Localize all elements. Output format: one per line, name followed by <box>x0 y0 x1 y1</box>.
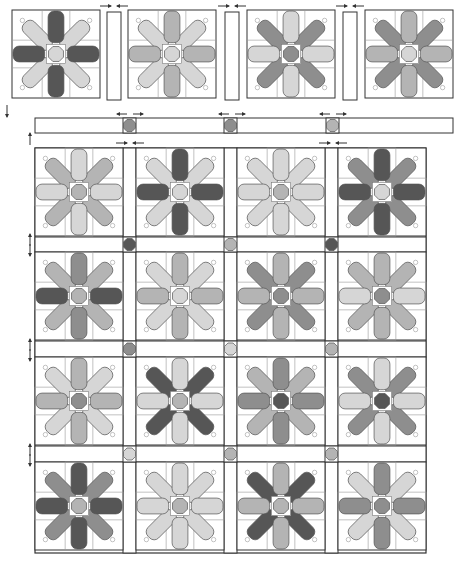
corner-point <box>245 327 249 331</box>
corner-point <box>211 156 215 160</box>
center-octagon <box>274 185 289 200</box>
corner-point <box>87 18 91 22</box>
corner-point <box>110 327 114 331</box>
arrow-down-icon <box>5 114 9 118</box>
horizontal-petal <box>366 46 398 62</box>
arrowhead-icon <box>116 112 120 116</box>
corner-point <box>144 365 148 369</box>
horizontal-petal <box>137 184 169 200</box>
horizontal-petal <box>13 46 45 62</box>
center-octagon <box>49 47 64 62</box>
center-octagon <box>72 185 87 200</box>
arrowhead-icon <box>344 4 348 8</box>
vertical-petal <box>273 412 289 444</box>
horizontal-petal <box>90 184 122 200</box>
grid-press-arrow-2 <box>319 141 347 145</box>
corner-point <box>312 260 316 264</box>
top-vertical-sashing-2 <box>225 12 239 100</box>
horizontal-petal <box>36 498 68 514</box>
horizontal-petal <box>90 393 122 409</box>
horizontal-petal <box>238 393 270 409</box>
cornerstone-r2-c1 <box>124 343 136 355</box>
corner-point <box>144 470 148 474</box>
cornerstone-r1-c1 <box>124 239 136 251</box>
horizontal-petal <box>238 184 270 200</box>
center-octagon <box>173 394 188 409</box>
corner-point <box>413 327 417 331</box>
corner-point <box>245 223 249 227</box>
vertical-petal <box>273 253 289 285</box>
corner-point <box>440 18 444 22</box>
corner-point <box>43 260 47 264</box>
corner-point <box>413 156 417 160</box>
side-arrow-1 <box>5 105 9 118</box>
center-octagon <box>72 394 87 409</box>
horizontal-petal <box>36 184 68 200</box>
vertical-petal <box>273 358 289 390</box>
corner-point <box>312 470 316 474</box>
cornerstone-2 <box>225 120 237 132</box>
grid-block-r3-c4 <box>338 357 426 445</box>
corner-point <box>413 223 417 227</box>
horizontal-petal <box>339 184 371 200</box>
vertical-petal <box>48 65 64 97</box>
cornerstone-3 <box>327 120 339 132</box>
vertical-petal <box>374 307 390 339</box>
grid-block-r1-c2 <box>136 148 224 236</box>
vertical-petal <box>71 517 87 549</box>
horizontal-petal <box>191 393 223 409</box>
vertical-petal <box>172 307 188 339</box>
grid-block-r4-c4 <box>338 462 426 550</box>
corner-point <box>110 432 114 436</box>
vertical-petal <box>71 203 87 235</box>
grid-block-r1-c3 <box>237 148 325 236</box>
cornerstone-r3-c2 <box>225 448 237 460</box>
corner-point <box>211 365 215 369</box>
vertical-petal <box>48 11 64 43</box>
vertical-petal <box>273 149 289 181</box>
vertical-petal <box>164 11 180 43</box>
horizontal-petal <box>302 46 334 62</box>
corner-point <box>136 18 140 22</box>
horizontal-petal <box>137 393 169 409</box>
top-row-block-1 <box>12 10 100 98</box>
vertical-petal <box>172 358 188 390</box>
corner-point <box>136 85 140 89</box>
sashing-press-arrow-1 <box>116 112 144 116</box>
grid-block-r1-c4 <box>338 148 426 236</box>
corner-point <box>203 85 207 89</box>
corner-point <box>346 156 350 160</box>
corner-point <box>20 85 24 89</box>
vertical-petal <box>71 412 87 444</box>
center-octagon <box>274 499 289 514</box>
cornerstone-r3-c3 <box>326 448 338 460</box>
corner-point <box>312 327 316 331</box>
center-octagon <box>173 499 188 514</box>
vertical-petal <box>374 463 390 495</box>
horizontal-petal <box>137 498 169 514</box>
grid-block-r2-c4 <box>338 252 426 340</box>
vertical-petal <box>273 517 289 549</box>
top-press-arrow-1 <box>100 4 128 8</box>
top-vertical-sashing-3 <box>343 12 357 100</box>
grid-block-r3-c2 <box>136 357 224 445</box>
horizontal-petal <box>292 184 324 200</box>
vertical-petal <box>374 253 390 285</box>
grid-block-r2-c2 <box>136 252 224 340</box>
horizontal-petal <box>238 288 270 304</box>
corner-point <box>211 223 215 227</box>
horizontal-petal <box>90 498 122 514</box>
corner-point <box>312 537 316 541</box>
arrowhead-icon <box>132 141 136 145</box>
grid-block-r3-c1 <box>35 357 123 445</box>
cornerstone-r3-c1 <box>124 448 136 460</box>
top-press-arrow-2 <box>218 4 246 8</box>
corner-point <box>43 470 47 474</box>
vertical-petal <box>71 358 87 390</box>
horizontal-petal <box>191 288 223 304</box>
corner-point <box>312 156 316 160</box>
corner-point <box>346 327 350 331</box>
arrow-down-icon <box>28 358 32 362</box>
arrowhead-icon <box>116 4 120 8</box>
grid-block-r1-c1 <box>35 148 123 236</box>
